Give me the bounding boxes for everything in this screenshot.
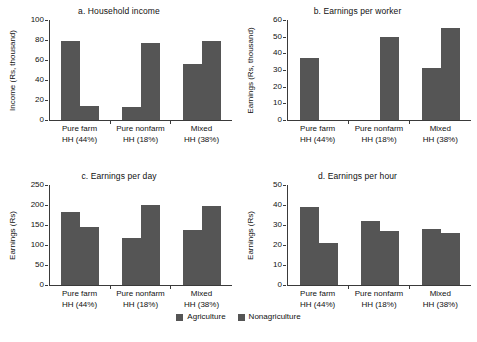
panel-b-y-tick-label: 10 (273, 99, 282, 107)
panel-b-y-tick-label: 50 (273, 33, 282, 41)
legend-swatch-icon (176, 314, 183, 321)
panel-b-y-tick-label: 0 (278, 116, 282, 124)
bar-agriculture (183, 64, 202, 120)
panel-a-household-income: a. Household income Income (Rs, thousand… (0, 0, 238, 165)
bar-nonagriculture (380, 37, 399, 120)
bar-agriculture (422, 229, 441, 285)
panel-d-y-tick-label: 10 (273, 261, 282, 269)
panel-b-x-label-1: Pure farmHH (44%) (287, 124, 348, 145)
x-label-line2: HH (18%) (348, 135, 409, 146)
legend-swatch-icon (238, 314, 245, 321)
legend-label: Nonagriculture (249, 313, 301, 321)
panel-a-y-tick-label: 20 (35, 96, 44, 104)
x-label-line2: HH (18%) (110, 300, 171, 311)
panel-a-x-label-2: Pure nonfarmHH (18%) (110, 124, 171, 145)
panel-a-y-tick-label: 0 (40, 116, 44, 124)
x-label-line1: Pure nonfarm (348, 124, 409, 135)
panel-d-y-tick-label: 50 (273, 181, 282, 189)
panel-c-x-label-2: Pure nonfarmHH (18%) (110, 289, 171, 310)
figure-four-panel-bar-charts: a. Household income Income (Rs, thousand… (0, 0, 477, 342)
bar-agriculture (122, 107, 141, 120)
x-label-line2: HH (44%) (49, 135, 110, 146)
panel-b-plot: Earnings (Rs, thousand) 0102030405060 Pu… (246, 20, 471, 132)
panel-c-y-axis-label: Earnings (Rs) (6, 185, 18, 285)
panel-c-y-tick-label: 250 (31, 181, 44, 189)
x-label-line2: HH (38%) (171, 135, 232, 146)
panel-a-y-tick-label: 60 (35, 56, 44, 64)
panel-c-y-tick-label: 150 (31, 221, 44, 229)
x-label-line1: Mixed (171, 289, 232, 300)
bar-agriculture (361, 221, 380, 285)
panel-c-y-tick-label: 50 (35, 261, 44, 269)
panel-a-group-1 (50, 20, 111, 120)
bar-agriculture (122, 238, 141, 285)
panel-a-bar-groups (50, 20, 232, 120)
x-label-line1: Mixed (410, 124, 471, 135)
panel-d-y-tick-label: 0 (278, 281, 282, 289)
panel-b-bar-groups (288, 20, 471, 120)
panel-a-group-2 (111, 20, 172, 120)
panel-b-axis-area (287, 20, 471, 121)
x-label-line1: Mixed (410, 289, 471, 300)
panel-d-y-ticks: 01020304050 (256, 185, 286, 285)
bar-nonagriculture (441, 28, 460, 120)
panel-b-group-2 (349, 20, 410, 120)
panel-d-x-label-2: Pure nonfarmHH (18%) (348, 289, 409, 310)
panel-a-x-label-3: MixedHH (38%) (171, 124, 232, 145)
x-label-line2: HH (44%) (287, 300, 348, 311)
panel-b-y-axis-label: Earnings (Rs, thousand) (244, 20, 256, 120)
legend-label: Agriculture (187, 313, 225, 321)
panel-b-x-label-2: Pure nonfarmHH (18%) (348, 124, 409, 145)
bar-nonagriculture (319, 243, 338, 285)
panel-a-y-tick-label: 40 (35, 76, 44, 84)
panel-c-bar-groups (50, 185, 232, 285)
bar-nonagriculture (441, 233, 460, 285)
panel-a-x-labels: Pure farmHH (44%)Pure nonfarmHH (18%)Mix… (49, 124, 232, 145)
x-label-line1: Pure farm (287, 124, 348, 135)
panel-d-group-1 (288, 185, 349, 285)
panel-c-group-1 (50, 185, 111, 285)
panel-a-axis-area (49, 20, 232, 121)
panel-d-y-tick-label: 20 (273, 241, 282, 249)
x-label-line2: HH (18%) (110, 135, 171, 146)
bar-nonagriculture (80, 106, 99, 120)
panel-c-x-label-3: MixedHH (38%) (171, 289, 232, 310)
panel-a-y-tick-label: 80 (35, 36, 44, 44)
panel-b-group-1 (288, 20, 349, 120)
x-label-line2: HH (38%) (410, 300, 471, 311)
bar-nonagriculture (380, 231, 399, 285)
bar-nonagriculture (141, 205, 160, 285)
bar-nonagriculture (202, 206, 221, 285)
bar-agriculture (183, 230, 202, 285)
panel-b-y-tick-label: 60 (273, 16, 282, 24)
bar-agriculture (61, 41, 80, 120)
x-label-line2: HH (38%) (410, 135, 471, 146)
panel-d-group-3 (410, 185, 471, 285)
bar-nonagriculture (141, 43, 160, 120)
panel-b-y-tick-label: 20 (273, 83, 282, 91)
panel-c-y-ticks: 050100150200250 (18, 185, 48, 285)
x-label-line1: Pure farm (49, 124, 110, 135)
bar-nonagriculture (80, 227, 99, 285)
bar-agriculture (300, 207, 319, 285)
panel-d-x-label-1: Pure farmHH (44%) (287, 289, 348, 310)
panel-b-x-label-3: MixedHH (38%) (410, 124, 471, 145)
source-note (4, 333, 473, 341)
x-label-line2: HH (44%) (49, 300, 110, 311)
panel-d-earnings-per-hour: d. Earnings per hour Earnings (Rs) 01020… (238, 165, 477, 313)
panel-b-y-tick-label: 40 (273, 49, 282, 57)
legend-item-nonagriculture[interactable]: Nonagriculture (238, 313, 301, 321)
panel-b-group-3 (410, 20, 471, 120)
panel-a-y-tick-label: 100 (31, 16, 44, 24)
panel-c-x-labels: Pure farmHH (44%)Pure nonfarmHH (18%)Mix… (49, 289, 232, 310)
panel-d-plot: Earnings (Rs) 01020304050 Pure farmHH (4… (246, 185, 471, 297)
panel-c-y-tick-label: 100 (31, 241, 44, 249)
legend-item-agriculture[interactable]: Agriculture (176, 313, 225, 321)
bar-nonagriculture (202, 41, 221, 120)
x-label-line1: Pure nonfarm (110, 289, 171, 300)
panel-a-y-ticks: 020406080100 (18, 20, 48, 120)
x-label-line2: HH (44%) (287, 135, 348, 146)
x-label-line1: Pure farm (49, 289, 110, 300)
panel-d-axis-area (287, 185, 471, 286)
panel-b-x-labels: Pure farmHH (44%)Pure nonfarmHH (18%)Mix… (287, 124, 471, 145)
